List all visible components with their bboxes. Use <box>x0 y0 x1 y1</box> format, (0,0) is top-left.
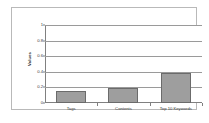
chart-frame: Values 00.20.40.60.81 TagsContentsTop 10… <box>11 7 197 110</box>
x-axis-tick-label: Top 10 Keywords <box>160 107 192 111</box>
bar-slot <box>45 25 97 103</box>
x-axis-tick-label: Tags <box>67 107 76 111</box>
y-axis-title: Values <box>28 52 32 66</box>
x-axis-tick-label: Contents <box>115 107 132 111</box>
y-axis-tick-label: 0.8 <box>37 38 43 42</box>
y-axis-tick-label: 0.6 <box>37 54 43 58</box>
bar-slot <box>97 25 149 103</box>
plot-region: 00.20.40.60.81 TagsContentsTop 10 Keywor… <box>45 25 202 103</box>
bar-slot <box>150 25 202 103</box>
x-axis-tick-mark <box>202 103 203 106</box>
y-axis-tick-label: 0 <box>41 101 43 105</box>
y-axis-tick-label: 1 <box>41 23 43 27</box>
x-axis-tick-mark <box>150 103 151 106</box>
y-axis-tick-label: 0.4 <box>37 70 43 74</box>
x-axis-tick-mark <box>97 103 98 106</box>
y-axis-tick-label: 0.2 <box>37 85 43 89</box>
bar[interactable] <box>108 88 138 103</box>
bar[interactable] <box>161 73 191 103</box>
bar[interactable] <box>56 91 86 103</box>
